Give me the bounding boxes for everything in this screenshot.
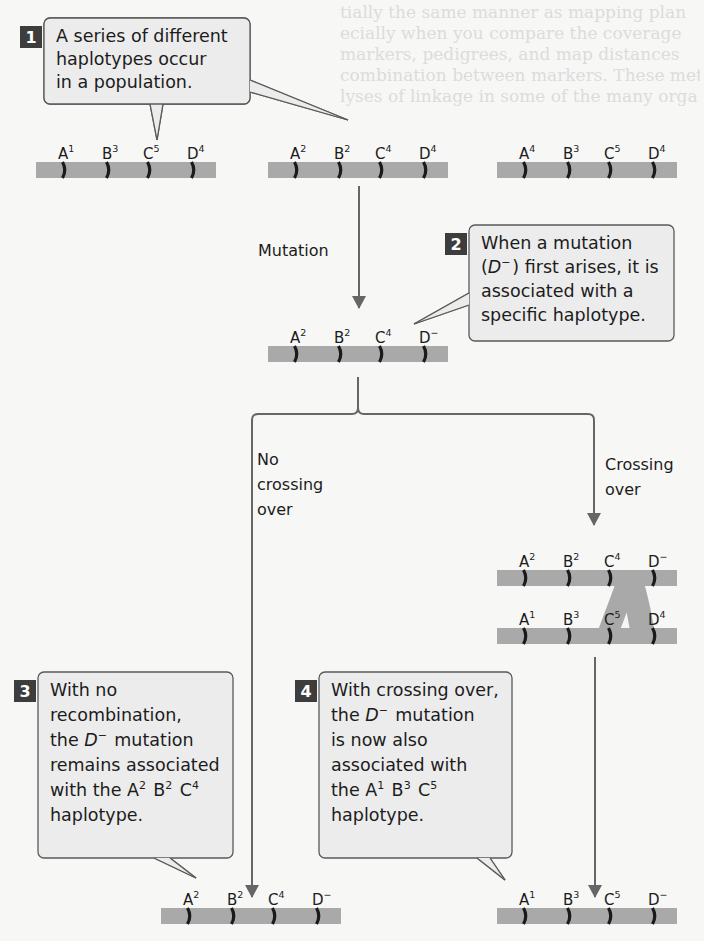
callout-step-1: 1A series of differenthaplotypes occurin… <box>20 18 348 120</box>
allele-label: A4 <box>519 143 535 163</box>
crossing-arrow <box>358 408 594 525</box>
allele-label: A2 <box>290 327 306 347</box>
allele-label: A1 <box>519 889 535 909</box>
haplotype-diagram: tially the same manner as mapping plan e… <box>0 0 704 941</box>
allele-label: C5 <box>604 143 621 163</box>
svg-text:4: 4 <box>300 682 311 701</box>
svg-text:No: No <box>257 450 279 469</box>
allele-label: B2 <box>334 143 350 163</box>
callout-text-line: haplotypes occur <box>56 49 207 69</box>
callout-text-line: A series of different <box>56 26 228 46</box>
allele-label: A1 <box>519 609 535 629</box>
svg-text:over: over <box>257 500 293 519</box>
callout-text-line: with the A2 B2 C4 <box>50 779 201 800</box>
callout-text-line: associated with a <box>481 281 634 301</box>
allele-label: C4 <box>375 327 392 347</box>
allele-label: C4 <box>375 143 392 163</box>
allele-label: B3 <box>563 609 579 629</box>
callout-text-line: With crossing over, <box>331 680 499 700</box>
callout-text-line: haplotype. <box>331 805 424 825</box>
allele-label: D− <box>312 889 332 909</box>
allele-label: A2 <box>183 889 199 909</box>
allele-label: D− <box>648 551 668 571</box>
chromosome-crossover-top: A2B2C4D− <box>497 551 677 586</box>
step-number-badge: 3 <box>14 680 36 702</box>
allele-label: B2 <box>334 327 350 347</box>
svg-text:1: 1 <box>25 28 36 47</box>
svg-text:Mutation: Mutation <box>258 241 329 260</box>
callout-text-line: With no <box>50 680 117 700</box>
allele-label: A1 <box>58 143 74 163</box>
callout-step-4: 4With crossing over,the D− mutationis no… <box>295 672 512 880</box>
allele-label: C4 <box>268 889 285 909</box>
crossing-over-label: Crossingover <box>605 455 674 499</box>
callout-text-line: When a mutation <box>481 233 632 253</box>
step-number-badge: 4 <box>295 680 317 702</box>
allele-label: A2 <box>290 143 306 163</box>
callout-text-line: is now also <box>331 730 428 750</box>
allele-label: D− <box>419 327 439 347</box>
allele-label: D− <box>648 889 668 909</box>
chromosome-population-2: A2B2C4D4 <box>268 143 448 178</box>
callout-text-line: in a population. <box>56 72 193 92</box>
chromosome-result-crossing: A1B3C5D− <box>497 889 677 924</box>
diagram-canvas: A1B3C5D4A2B2C4D4A4B3C5D4A2B2C4D−A2B2C4D−… <box>0 0 704 941</box>
allele-label: D4 <box>648 143 666 163</box>
allele-label: B2 <box>227 889 243 909</box>
no-crossing-label: Nocrossingover <box>257 450 323 519</box>
svg-text:3: 3 <box>19 682 30 701</box>
step-number-badge: 2 <box>445 233 467 255</box>
allele-label: D4 <box>648 609 666 629</box>
callout-text-line: the A1 B3 C5 <box>331 779 439 800</box>
callout-text-line: associated with <box>331 755 467 775</box>
chromosome-crossover-bottom: A1B3C5D4 <box>497 609 677 644</box>
allele-label: D4 <box>419 143 437 163</box>
callout-text-line: haplotype. <box>50 805 143 825</box>
callout-step-2: 2When a mutation(D− ) first arises, it i… <box>414 225 674 341</box>
allele-label: A2 <box>519 551 535 571</box>
callout-text-line: remains associated <box>50 755 220 775</box>
callout-step-3: 3With norecombination,the D− mutationrem… <box>14 672 233 878</box>
allele-label: B3 <box>563 143 579 163</box>
chromosome-population-3: A4B3C5D4 <box>497 143 677 178</box>
callout-text-line: the D− mutation <box>50 729 194 750</box>
callout-text-line: recombination, <box>50 705 182 725</box>
allele-label: C5 <box>143 143 160 163</box>
allele-label: B3 <box>563 889 579 909</box>
allele-label: D4 <box>187 143 205 163</box>
svg-text:2: 2 <box>450 235 461 254</box>
allele-label: C4 <box>604 551 621 571</box>
chromosome-population-1: A1B3C5D4 <box>36 143 216 178</box>
allele-label: B3 <box>102 143 118 163</box>
step-number-badge: 1 <box>20 26 42 48</box>
svg-text:over: over <box>605 480 641 499</box>
callout-text-line: the D− mutation <box>331 704 475 725</box>
chromosome-mutated: A2B2C4D− <box>268 327 448 362</box>
svg-text:Crossing: Crossing <box>605 455 674 474</box>
callout-text-line: specific haplotype. <box>481 305 646 325</box>
allele-label: B2 <box>563 551 579 571</box>
svg-text:crossing: crossing <box>257 475 323 494</box>
allele-label: C5 <box>604 889 621 909</box>
mutation-label: Mutation <box>258 241 329 260</box>
